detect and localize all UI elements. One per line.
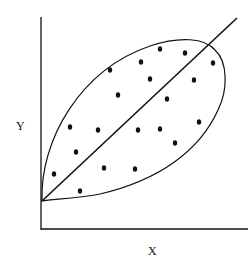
data-point — [158, 46, 162, 52]
data-point — [139, 59, 143, 65]
data-point — [158, 126, 162, 132]
data-point — [96, 127, 100, 133]
data-point — [116, 92, 120, 98]
data-point — [102, 165, 106, 171]
data-points — [52, 46, 215, 194]
data-point — [197, 119, 201, 125]
data-point — [108, 67, 112, 73]
data-point — [165, 96, 169, 102]
data-point — [148, 76, 152, 82]
data-point — [133, 166, 137, 172]
data-point — [183, 50, 187, 56]
data-point — [68, 124, 72, 130]
y-axis-label: Y — [16, 119, 25, 133]
data-point — [52, 171, 56, 177]
data-point — [192, 77, 196, 83]
data-point — [136, 127, 140, 133]
data-point — [74, 149, 78, 155]
data-point — [173, 140, 177, 146]
scatter-diagram: Y X — [0, 0, 251, 265]
x-axis-label: X — [148, 244, 157, 258]
data-point — [211, 60, 215, 66]
regression-line — [42, 18, 237, 201]
data-point — [78, 188, 82, 194]
